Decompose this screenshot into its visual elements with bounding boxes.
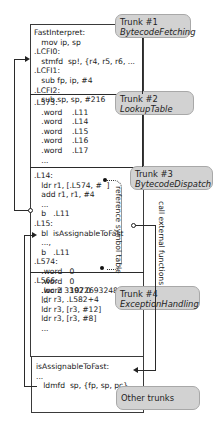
arrow-left-icon [133,367,138,373]
trunk-label-2: Trunk #2 LookupTable [115,91,194,115]
divider-lookup-dispatch [30,167,144,168]
reference-dot-start [103,178,107,182]
call-external-functions-label: call external functions [157,201,166,285]
trunk-label-1: Trunk #1 BytecodeFetching [115,14,191,38]
code-block-lookup-table: .L573: .word .L11 .word .L14 .word .L15 … [34,98,88,165]
return-line-vertical [24,235,25,386]
call-line-vertical [155,225,156,370]
code-block-exception-handling: .L566: .loc 2 3392 0 ldr r3, .L582+4 ldr… [34,276,101,334]
return-line-top [24,235,32,236]
trunk-3-name: BytecodeDispatch [135,179,208,189]
return-line-bottom [24,386,37,387]
loop-line-vertical [14,59,15,211]
trunk-3-title: Trunk #3 [135,169,208,179]
trunk-2-name: LookupTable [120,104,189,114]
code-block-other-trunks: isAssignableToFast: ... ldmfd sp, {fp, s… [36,362,128,391]
arrow-right-icon [25,56,30,62]
trunk-4-title: Trunk #4 [120,289,195,299]
trunk1-connector [142,38,143,94]
branch-origin-circle-icon [28,208,33,213]
trunk2-connector [142,115,143,167]
call-origin-circle-icon [131,223,136,228]
reference-symbol-table-label: reference symbol table [114,186,123,274]
trunk-4-name: ExceptionHandling [120,299,195,309]
trunk-1-title: Trunk #1 [120,17,186,27]
call-line-bottom [138,370,156,371]
trunk-other-title: Other trunks [121,393,195,403]
reference-dot-end [100,266,104,270]
trunk-label-other: Other trunks [116,386,200,410]
trunk-label-3: Trunk #3 BytecodeDispatch [130,166,213,190]
arrow-right-icon [32,232,37,238]
trunk-1-name: BytecodeFetching [120,27,186,37]
call-line-horizontal [135,225,155,226]
trunk-label-4: Trunk #4 ExceptionHandling [115,286,200,310]
trunk-2-title: Trunk #2 [120,94,189,104]
